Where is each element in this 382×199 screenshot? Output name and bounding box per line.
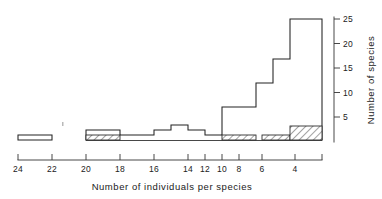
bar-profile-main (86, 19, 322, 140)
x-axis-ticks (18, 154, 322, 160)
y-axis-ticks (334, 19, 340, 117)
x-tick-label: 24 (13, 164, 23, 174)
x-tick-label: 18 (115, 164, 125, 174)
y-axis-caption: Number of species (365, 36, 376, 125)
histogram-plot: 24 22 20 18 16 14 12 10 8 6 4 Number of … (0, 0, 382, 199)
x-tick-label: 14 (183, 164, 193, 174)
y-axis: 5 10 15 20 25 Number of species (334, 14, 376, 142)
y-axis-tick-labels: 5 10 15 20 25 (343, 14, 353, 122)
hatch-bar-20-18 (86, 135, 120, 140)
x-tick-label: 16 (149, 164, 159, 174)
x-tick-label: 4 (293, 164, 298, 174)
y-tick-label: 15 (343, 63, 353, 73)
hatch-bar-4-2 (262, 135, 290, 140)
x-axis: 24 22 20 18 16 14 12 10 8 6 4 Number of … (13, 154, 322, 192)
y-tick-label: 5 (343, 112, 348, 122)
x-tick-label: 12 (200, 164, 210, 174)
y-tick-label: 20 (343, 39, 353, 49)
y-tick-label: 25 (343, 14, 353, 24)
hatch-bar-2-0 (290, 126, 322, 140)
y-tick-label: 10 (343, 88, 353, 98)
histogram-figure: 24 22 20 18 16 14 12 10 8 6 4 Number of … (0, 0, 382, 199)
histogram-bars (18, 19, 322, 141)
x-tick-label: 6 (260, 164, 265, 174)
hatch-bar-8-6 (222, 135, 256, 140)
x-axis-tick-labels: 24 22 20 18 16 14 12 10 8 6 4 (13, 164, 297, 174)
x-tick-label: 20 (81, 164, 91, 174)
bar-24-22 (18, 135, 52, 140)
x-axis-caption: Number of individuals per species (92, 181, 253, 192)
x-tick-label: 8 (237, 164, 242, 174)
x-tick-label: 22 (47, 164, 57, 174)
x-tick-label: 10 (217, 164, 227, 174)
scan-speck (62, 122, 64, 126)
